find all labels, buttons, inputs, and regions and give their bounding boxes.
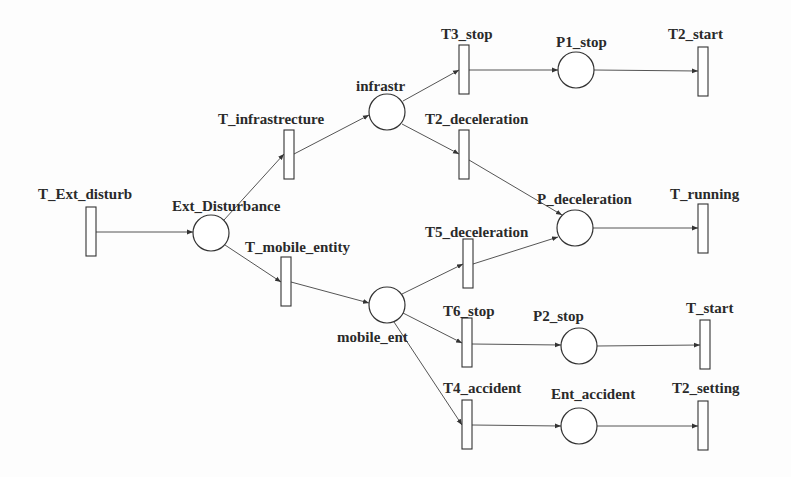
place-p1_stop: [558, 52, 594, 88]
place-infrastr: [369, 94, 405, 130]
arc-p1_stop-to-t2_start: [594, 70, 698, 71]
transition-label-t_start: T_start: [686, 300, 734, 316]
transition-t4_accident: [462, 400, 472, 449]
transition-t_start: [700, 320, 710, 369]
transition-label-t2_start: T2_start: [668, 26, 723, 42]
place-label-p_deceleration: P_deceleration: [537, 191, 633, 207]
transition-t2_deceleration: [459, 130, 469, 179]
arc-t_mobile_entity-to-mobile_ent: [291, 282, 369, 303]
transition-label-t_ext_disturb: T_Ext_disturb: [38, 186, 132, 202]
place-label-mobile_ent: mobile_ent: [337, 329, 408, 345]
transition-t5_deceleration: [463, 239, 473, 288]
arc-t6_stop-to-p2_stop: [472, 344, 561, 345]
transition-t_running: [698, 204, 708, 253]
transition-t_infrastrecture: [284, 130, 294, 179]
arc-p2_stop-to-t_start: [597, 345, 700, 346]
place-ext_disturbance: [193, 215, 229, 251]
place-label-infrastr: infrastr: [356, 78, 405, 94]
transition-t6_stop: [462, 318, 472, 367]
arc-infrastr-to-t2_deceleration: [402, 124, 459, 154]
transition-t3_stop: [459, 45, 469, 94]
place-mobile_ent: [369, 287, 405, 323]
transition-t_ext_disturb: [86, 207, 96, 256]
transition-label-t_running: T_running: [670, 186, 740, 202]
transition-label-t3_stop: T3_stop: [441, 26, 493, 42]
place-p_deceleration: [557, 210, 593, 246]
transition-label-t_infrastrecture: T_infrastrecture: [218, 111, 324, 127]
arc-mobile_ent-to-t5_deceleration: [402, 264, 463, 294]
arc-infrastr-to-t3_stop: [403, 70, 459, 101]
arc-t4_accident-to-ent_accident: [472, 425, 561, 426]
transition-label-t6_stop: T6_stop: [443, 303, 495, 319]
place-p2_stop: [561, 328, 597, 364]
place-ent_accident: [561, 408, 597, 444]
transition-label-t2_deceleration: T2_deceleration: [425, 111, 529, 127]
petri-net-diagram: Ext_DisturbanceinfrastrP1_stopP_decelera…: [0, 0, 791, 477]
place-label-p2_stop: P2_stop: [533, 308, 584, 324]
place-label-p1_stop: P1_stop: [556, 34, 607, 50]
transition-label-t_mobile_entity: T_mobile_entity: [245, 239, 350, 255]
place-label-ent_accident: Ent_accident: [551, 386, 635, 402]
transition-label-t2_setting: T2_setting: [672, 380, 740, 396]
place-label-ext_disturbance: Ext_Disturbance: [172, 198, 281, 214]
transition-t2_setting: [698, 401, 708, 450]
transition-t2_start: [698, 47, 708, 96]
transition-label-t4_accident: T4_accident: [443, 380, 521, 396]
transition-label-t5_deceleration: T5_deceleration: [425, 224, 529, 240]
arc-t5_deceleration-to-p_deceleration: [473, 237, 558, 264]
transition-t_mobile_entity: [281, 257, 291, 306]
